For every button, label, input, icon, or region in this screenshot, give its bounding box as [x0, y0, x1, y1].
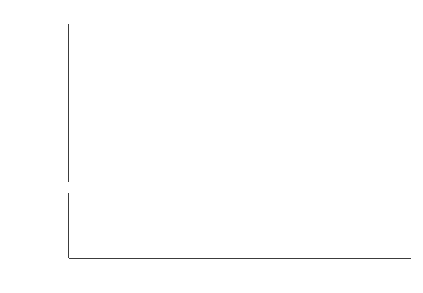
mentions-per-year-panel	[69, 193, 412, 259]
enforcement-figure	[0, 0, 423, 293]
chart-canvas	[0, 0, 423, 293]
